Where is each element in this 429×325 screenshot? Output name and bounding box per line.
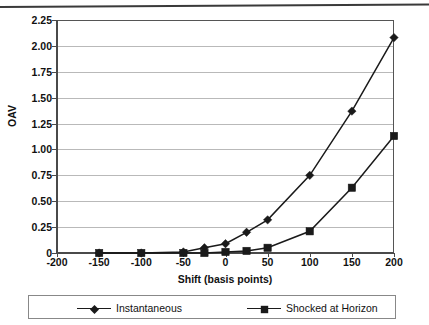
diamond-marker-icon xyxy=(77,302,111,314)
data-point-marker xyxy=(242,228,250,236)
square-marker-icon xyxy=(247,302,281,314)
legend-label: Instantaneous xyxy=(116,302,182,314)
legend-label: Shocked at Horizon xyxy=(286,302,378,314)
series-line-diamond xyxy=(99,38,394,253)
data-point-marker xyxy=(348,184,355,191)
data-point-marker xyxy=(95,249,102,256)
data-point-marker xyxy=(138,249,145,256)
legend-item-instantaneous[interactable]: Instantaneous xyxy=(77,300,182,316)
data-point-marker xyxy=(348,107,356,115)
data-point-marker xyxy=(201,249,208,256)
data-point-marker xyxy=(390,33,398,41)
data-point-marker xyxy=(264,244,271,251)
legend-item-shocked-at-horizon[interactable]: Shocked at Horizon xyxy=(247,300,378,316)
data-point-marker xyxy=(222,248,229,255)
data-point-marker xyxy=(390,132,397,139)
data-point-marker xyxy=(306,228,313,235)
data-point-marker xyxy=(243,247,250,254)
data-point-marker xyxy=(221,239,229,247)
chart-legend: Instantaneous Shocked at Horizon xyxy=(28,295,396,319)
data-point-marker xyxy=(180,249,187,256)
chart-figure: OAV 00.250.500.751.001.251.501.752.002.2… xyxy=(0,0,429,325)
series-layer xyxy=(0,0,429,325)
